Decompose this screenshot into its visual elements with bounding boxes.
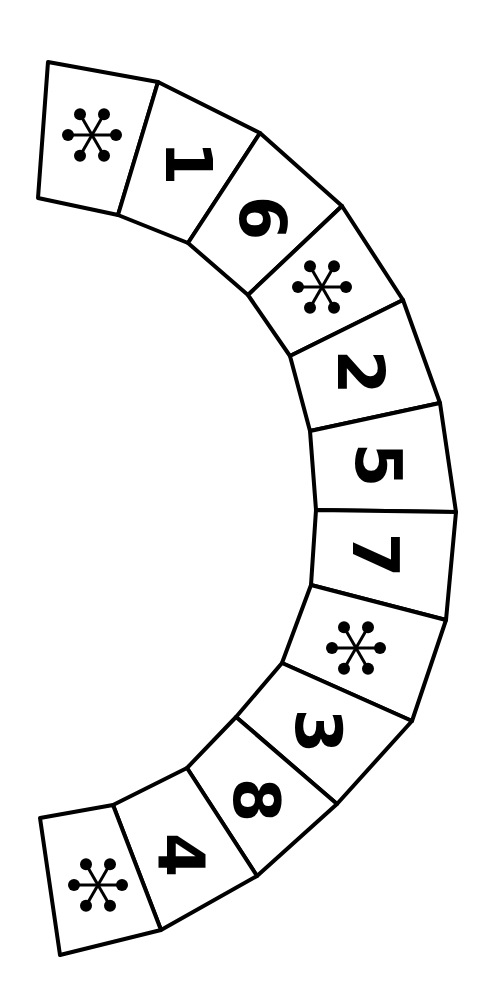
cell-number: 3 [281,709,355,754]
cell-number: 2 [323,350,397,395]
cell-number: 7 [338,533,412,578]
cell-number: 8 [219,778,293,823]
cell-number: 1 [151,141,225,186]
arc-game-board: 16257384 [0,0,500,1000]
cell-number: 4 [143,833,217,878]
cell-number: 6 [225,196,299,241]
cell-number: 5 [341,443,415,488]
